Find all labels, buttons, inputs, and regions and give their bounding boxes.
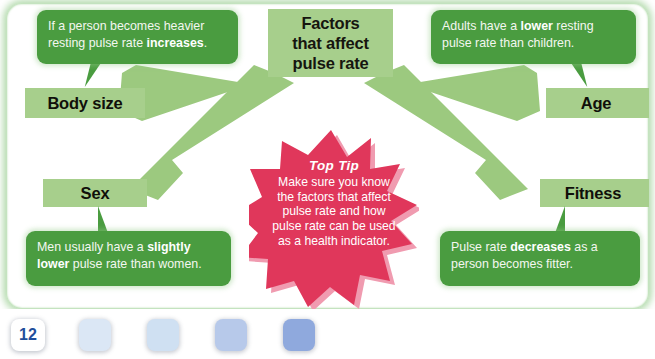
factor-label-text: Fitness [565,184,621,203]
bubble-text-pre: Men usually have a [37,240,147,254]
star-shape-icon [249,128,419,309]
bubble-body-size: If a person becomes heavier resting puls… [37,10,238,64]
bubble-sex: Men usually have a slightly lower pulse … [26,231,231,286]
bubble-tail-sex [98,206,128,233]
factor-label-fitness: Fitness [540,179,649,207]
swatch-4[interactable] [283,319,315,351]
bubble-text-bold: increases [147,36,204,50]
center-title-box: Factors that affect pulse rate [268,9,393,77]
bubble-text-post: . [204,36,207,50]
page-canvas: Factors that affect pulse rate Body size… [0,0,655,359]
factor-label-age: Age [546,88,649,118]
diagram-panel: Factors that affect pulse rate Body size… [6,3,649,309]
bubble-age: Adults have a lower resting pulse rate t… [431,10,636,64]
bubble-text-bold: decreases [510,240,571,254]
bubble-text-bold: lower [521,19,553,33]
swatch-1[interactable] [79,319,111,351]
factor-label-body-size: Body size [25,88,145,118]
bubble-text-pre: Adults have a [442,19,521,33]
bubble-text-post: pulse rate than women. [69,257,201,271]
factor-label-text: Sex [81,184,110,203]
bubble-text-pre: Pulse rate [451,240,510,254]
swatch-2[interactable] [147,319,179,351]
bubble-tail-fitness [535,206,565,233]
bubble-fitness: Pulse rate decreases as a person becomes… [440,231,640,286]
swatch-3[interactable] [215,319,247,351]
center-title-line-1: Factors [301,14,359,32]
footer-bar: 12 [0,309,655,359]
factor-label-text: Age [581,94,612,113]
page-number-badge: 12 [11,319,45,351]
factor-label-sex: Sex [43,179,147,207]
top-tip-star: Top Tip Make sure you know the factors t… [249,128,419,309]
center-title-line-3: pulse rate [293,54,369,72]
factor-label-text: Body size [47,94,122,113]
page-number-text: 12 [19,326,37,344]
bubble-tail-age [551,61,587,87]
center-title-line-2: that affect [292,34,369,52]
